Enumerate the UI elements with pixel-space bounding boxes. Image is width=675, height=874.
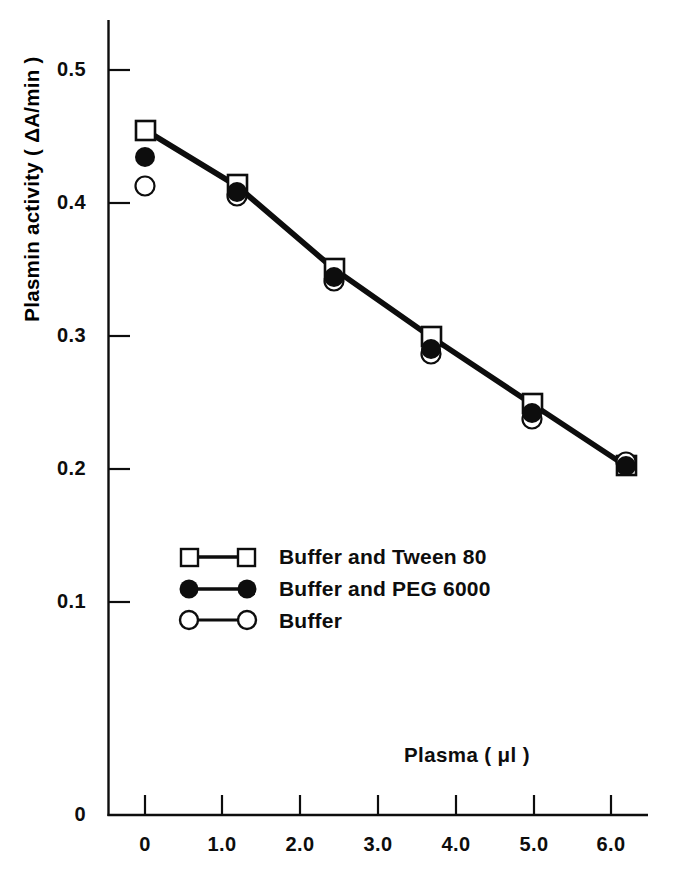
- legend-marker-open-circle-right: [238, 611, 256, 629]
- marker-filled-circle: [616, 456, 636, 476]
- y-tick-label-0.5: 0.5: [16, 58, 86, 81]
- x-tick-label-2.0: 2.0: [270, 833, 330, 856]
- x-tick-label-6.0: 6.0: [581, 833, 641, 856]
- marker-filled-circle: [522, 403, 542, 423]
- legend-marker-open-square-left: [181, 549, 198, 566]
- y-tick-label-0.4: 0.4: [16, 191, 86, 214]
- legend-marker-filled-circle-left: [180, 580, 199, 599]
- x-axis-title: Plasma ( μl ): [404, 743, 530, 767]
- data-point-group-x3: [421, 327, 441, 364]
- legend-marker-open-square-right: [238, 549, 255, 566]
- data-point-group-x2: [324, 259, 344, 291]
- marker-filled-circle: [135, 147, 155, 167]
- marker-open-circle: [136, 177, 155, 196]
- legend-marker-open-circle-left: [180, 611, 198, 629]
- y-tick-label-0.2: 0.2: [16, 457, 86, 480]
- x-tick-label-5.0: 5.0: [504, 833, 564, 856]
- plot-area: [0, 0, 675, 874]
- marker-filled-circle: [324, 267, 344, 287]
- marker-open-square: [136, 121, 155, 140]
- marker-filled-circle: [421, 339, 441, 359]
- legend-item-label-buffer: Buffer: [279, 609, 342, 633]
- legend-item-label-buffer-and-tween-80: Buffer and Tween 80: [279, 545, 487, 569]
- x-tick-label-0: 0: [115, 833, 175, 856]
- x-tick-label-4.0: 4.0: [426, 833, 486, 856]
- y-tick-label-0: 0: [16, 803, 86, 826]
- chart-figure: Plasmin activity ( ΔA/min ) 0.5 0.4 0.3 …: [0, 0, 675, 874]
- data-point-group-x1: [227, 175, 247, 206]
- marker-filled-circle: [227, 182, 247, 202]
- x-tick-label-1.0: 1.0: [192, 833, 252, 856]
- legend-markers: [180, 549, 257, 629]
- series-line-buffer-and-tween-80: [145, 130, 626, 466]
- data-point-group-x5: [616, 453, 636, 477]
- data-lines: [145, 130, 626, 466]
- y-tick-label-0.3: 0.3: [16, 324, 86, 347]
- x-axis-ticks: [145, 795, 611, 815]
- legend-marker-filled-circle-right: [238, 580, 257, 599]
- y-tick-label-0.1: 0.1: [16, 590, 86, 613]
- data-point-group-x4: [522, 394, 542, 429]
- data-point-group-x0: [135, 121, 155, 196]
- axes-group: [108, 20, 649, 816]
- x-tick-label-3.0: 3.0: [348, 833, 408, 856]
- legend-item-label-buffer-and-peg-6000: Buffer and PEG 6000: [279, 577, 491, 601]
- y-axis-ticks: [108, 70, 130, 602]
